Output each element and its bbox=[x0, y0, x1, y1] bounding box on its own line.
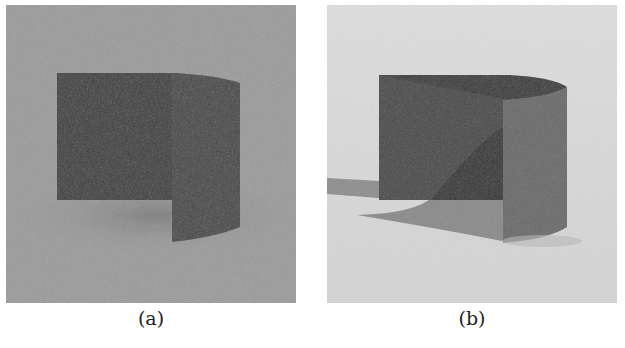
figure-panel-b bbox=[327, 5, 617, 303]
caption-a: (a) bbox=[6, 307, 296, 329]
rendered-image-b bbox=[327, 5, 617, 303]
figure-panel-a bbox=[6, 5, 296, 303]
caption-b: (b) bbox=[327, 307, 617, 329]
rendered-image-a bbox=[6, 5, 296, 303]
